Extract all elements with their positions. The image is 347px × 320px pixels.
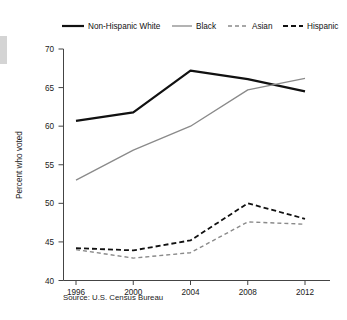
x-tick-label: 2012 — [296, 288, 315, 297]
chart-axes — [64, 49, 331, 281]
x-tick-label: 2008 — [239, 288, 258, 297]
axis-lines — [64, 49, 331, 281]
y-axis-title: Percent who voted — [15, 131, 24, 199]
y-tick-label: 55 — [45, 161, 55, 170]
series-line-black — [76, 78, 305, 180]
y-tick-label: 70 — [45, 45, 55, 54]
voter-turnout-line-chart: Non-Hispanic WhiteBlackAsianHispanic 404… — [0, 0, 347, 320]
chart-legend: Non-Hispanic WhiteBlackAsianHispanic — [62, 22, 338, 31]
chart-series — [76, 71, 305, 259]
legend-label-asian: Asian — [252, 22, 273, 31]
legend-label-black: Black — [196, 22, 217, 31]
y-tick-label: 60 — [45, 122, 55, 131]
y-tick-label: 50 — [45, 199, 55, 208]
series-line-hispanic — [76, 203, 305, 250]
y-axis-ticks: 40455055606570 — [45, 45, 64, 286]
series-line-non-hispanic-white — [76, 71, 305, 121]
legend-label-non-hispanic-white: Non-Hispanic White — [88, 22, 161, 31]
chart-container: Non-Hispanic WhiteBlackAsianHispanic 404… — [0, 0, 347, 320]
y-tick-label: 45 — [45, 238, 55, 247]
y-tick-label: 40 — [45, 277, 55, 286]
y-tick-label: 65 — [45, 84, 55, 93]
legend-label-hispanic: Hispanic — [307, 22, 338, 31]
source-note: Source: U.S. Census Bureau — [63, 293, 163, 302]
x-tick-label: 2004 — [181, 288, 200, 297]
left-edge-artifact — [0, 36, 7, 64]
